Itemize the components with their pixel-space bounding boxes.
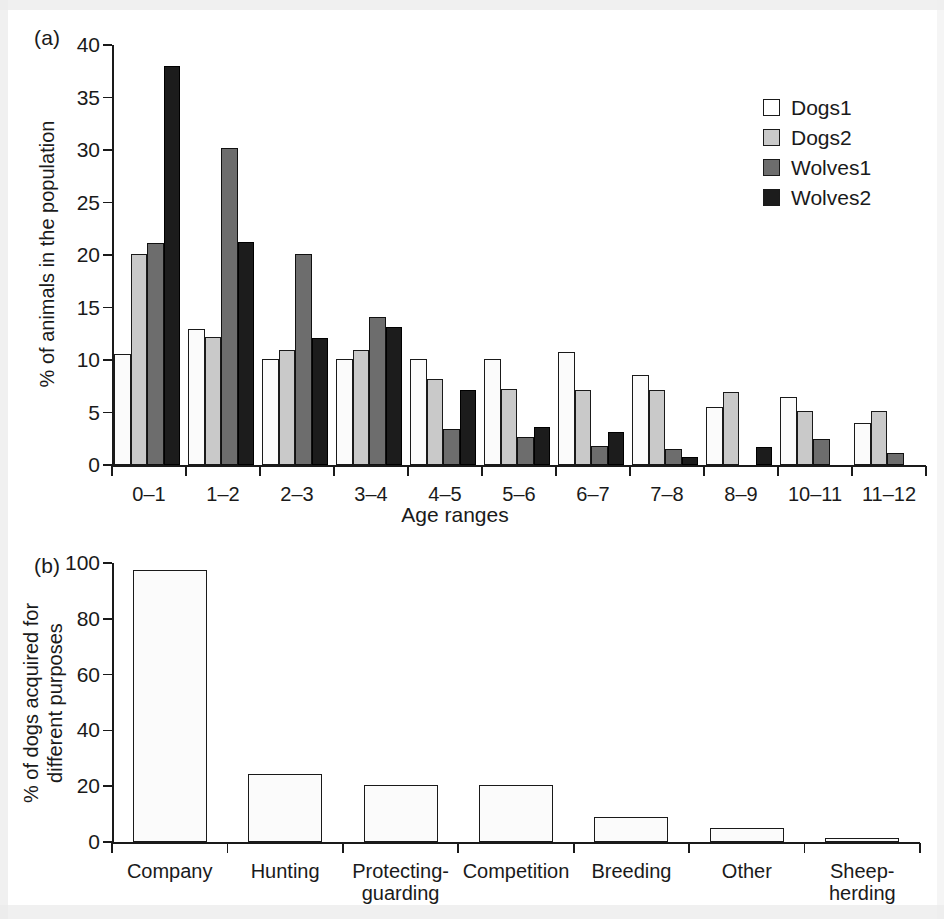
legend-swatch-dogs2-icon: [763, 129, 780, 146]
panel-a-x-tick: [185, 466, 187, 476]
panel-a-bar: [797, 411, 814, 465]
panel-a-bar: [649, 390, 666, 465]
panel-b-plot-area: 020406080100CompanyHuntingProtecting-gua…: [0, 540, 944, 919]
panel-b-x-tick-label-line1: Protecting-: [352, 860, 449, 882]
panel-a-y-tick-label: 40: [54, 34, 100, 55]
panel-a-x-tick-label: 11–12: [845, 483, 933, 505]
panel-a-bar: [887, 453, 904, 465]
panel-a-bar: [410, 359, 427, 465]
panel-b-x-tick-label-line1: Other: [722, 860, 772, 882]
panel-a-x-tick: [851, 466, 853, 476]
panel-a-bar: [221, 148, 238, 465]
panel-a-x-tick: [111, 466, 113, 476]
panel-a-bar: [386, 327, 403, 465]
panel-b-bar: [248, 774, 322, 842]
panel-a-bar: [353, 350, 370, 466]
panel-a-bar: [534, 427, 551, 465]
panel-a-y-tick-label: 10: [54, 349, 100, 370]
panel-b-bar: [710, 828, 784, 842]
panel-a-bar: [756, 447, 773, 465]
panel-b-y-tick: [103, 618, 112, 620]
panel-a-bar: [238, 242, 255, 465]
panel-a-bar: [871, 411, 888, 465]
panel-b-x-tick: [688, 843, 690, 853]
panel-a-bar: [723, 392, 740, 466]
panel-b-x-axis-line: [112, 842, 920, 844]
panel-a-bar: [632, 375, 649, 465]
figure-container: (a) % of animals in the population 05101…: [0, 0, 944, 919]
panel-a-bar: [484, 359, 501, 465]
panel-b-x-tick: [457, 843, 459, 853]
panel-b-y-tick: [103, 562, 112, 564]
legend-row: Dogs2: [763, 122, 871, 152]
panel-a-bar: [188, 329, 205, 466]
panel-a-bar: [205, 337, 222, 465]
panel-a-bar: [813, 439, 830, 465]
panel-b-y-axis-line: [112, 563, 114, 843]
legend-swatch-wolves1-icon: [763, 159, 780, 176]
panel-b-x-tick-label: Competition: [454, 860, 578, 882]
panel-a-y-tick: [103, 307, 112, 309]
panel-a-bar: [591, 446, 608, 465]
panel-b-x-tick: [227, 843, 229, 853]
panel-b-y-tick: [103, 785, 112, 787]
panel-a-bar: [369, 317, 386, 465]
panel-a-y-tick-label: 0: [54, 454, 100, 475]
panel-a-bar: [706, 407, 723, 465]
panel-a-y-tick: [103, 97, 112, 99]
panel-a-y-tick-label: 15: [54, 297, 100, 318]
panel-b-y-tick-label: 20: [50, 775, 100, 796]
panel-a-y-tick: [103, 44, 112, 46]
panel-a-bar: [443, 429, 460, 465]
panel-a-x-tick: [259, 466, 261, 476]
legend-label: Wolves2: [791, 187, 871, 208]
panel-a-bar: [427, 379, 444, 465]
panel-b-y-tick-label: 80: [50, 608, 100, 629]
panel-a-y-tick-label: 30: [54, 139, 100, 160]
legend-row: Wolves2: [763, 182, 871, 212]
panel-b-x-tick-label: Breeding: [569, 860, 693, 882]
panel-b-x-tick: [573, 843, 575, 853]
panel-a-bar: [164, 66, 181, 465]
panel-b-x-tick: [342, 843, 344, 853]
panel-a-bar: [558, 352, 575, 465]
panel-a-bar: [262, 359, 279, 465]
panel-b-bar: [594, 817, 668, 842]
panel-a-x-tick: [925, 466, 927, 476]
panel-a-x-tick: [629, 466, 631, 476]
panel-a-bar: [854, 423, 871, 465]
panel-a-y-tick-label: 25: [54, 192, 100, 213]
panel-b-x-tick-label-line1: Sheep-: [830, 860, 895, 882]
panel-a-legend: Dogs1Dogs2Wolves1Wolves2: [763, 92, 871, 212]
panel-b-x-tick-label: Other: [685, 860, 809, 882]
panel-b-x-tick: [804, 843, 806, 853]
panel-a-y-tick: [103, 149, 112, 151]
panel-b-x-tick-label: Sheep-herding: [800, 860, 924, 905]
panel-a-x-tick: [407, 466, 409, 476]
panel-b-x-tick-label-line1: Company: [127, 860, 213, 882]
panel-a-bar: [114, 354, 131, 465]
legend-label: Wolves1: [791, 157, 871, 178]
panel-b-x-tick-label: Company: [108, 860, 232, 882]
panel-b-x-tick: [919, 843, 921, 853]
panel-a-bar: [336, 359, 353, 465]
panel-b-x-tick: [111, 843, 113, 853]
panel-a-bar: [131, 254, 148, 465]
panel-a-bar: [665, 449, 682, 465]
panel-a-y-tick: [103, 254, 112, 256]
panel-a-bar: [575, 390, 592, 465]
panel-b-x-tick-label-line2: guarding: [362, 882, 440, 904]
panel-b-x-tick-label: Protecting-guarding: [339, 860, 463, 905]
panel-b-bar: [364, 785, 438, 842]
legend-label: Dogs1: [791, 97, 852, 118]
panel-a-grouped-bar-chart: (a) % of animals in the population 05101…: [0, 0, 944, 540]
panel-b-bar: [825, 838, 899, 842]
panel-a-y-tick: [103, 412, 112, 414]
panel-a-x-axis-title: Age ranges: [330, 503, 580, 527]
panel-a-y-tick: [103, 359, 112, 361]
panel-a-y-tick-label: 5: [54, 402, 100, 423]
panel-a-plot-area: 05101520253035400–11–22–33–44–55–66–77–8…: [0, 0, 944, 540]
panel-b-x-tick-label: Hunting: [223, 860, 347, 882]
panel-b-bar: [479, 785, 553, 842]
panel-b-y-tick-label: 100: [50, 552, 100, 573]
